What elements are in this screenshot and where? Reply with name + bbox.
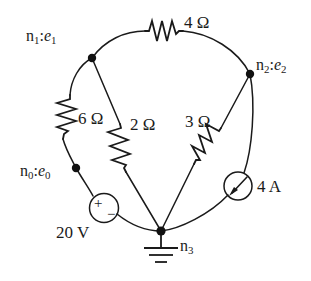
wire-r3-to-n3 bbox=[161, 164, 194, 231]
wire-r2-to-n3 bbox=[126, 172, 161, 231]
resistor-6ohm-label: 6 Ω bbox=[78, 110, 103, 127]
wire-n1-to-r4 bbox=[92, 31, 145, 58]
node-label-n3-n-sub: 3 bbox=[188, 244, 193, 256]
resistor-4ohm-zigzag bbox=[145, 21, 183, 41]
node-label-n3: n3 bbox=[180, 238, 193, 256]
wire-isource-to-n3 bbox=[161, 195, 228, 231]
circuit-diagram: n1:e1 n2:e2 n0:e0 n3 4 Ω 6 Ω 2 Ω 3 Ω 20 … bbox=[0, 0, 311, 281]
node-label-n2-n: n bbox=[256, 56, 264, 73]
node-dot-n1[interactable] bbox=[88, 54, 96, 62]
wire-vsource-to-n3 bbox=[117, 214, 161, 231]
node-label-n3-n: n bbox=[180, 237, 188, 254]
node-label-n2-e: e bbox=[274, 56, 281, 73]
node-label-n0-n: n bbox=[20, 162, 28, 179]
resistor-6ohm-zigzag bbox=[57, 95, 76, 139]
wire-r4-to-n2 bbox=[183, 31, 250, 74]
node-label-n0: n0:e0 bbox=[20, 163, 50, 181]
resistor-2ohm-zigzag bbox=[108, 124, 130, 172]
resistor-3ohm-label: 3 Ω bbox=[185, 113, 210, 130]
wire-n2-to-r3 bbox=[221, 74, 250, 128]
wire-r6-to-n0 bbox=[63, 139, 76, 168]
node-dot-n2[interactable] bbox=[246, 70, 254, 78]
current-source-label: 4 A bbox=[257, 178, 281, 195]
node-dot-n0[interactable] bbox=[72, 164, 80, 172]
node-label-n0-e-sub: 0 bbox=[45, 169, 50, 181]
voltage-source-minus-sign: − bbox=[107, 207, 115, 222]
node-label-n1: n1:e1 bbox=[26, 28, 56, 46]
node-label-n2: n2:e2 bbox=[256, 57, 286, 75]
wire-n0-to-vsource bbox=[76, 168, 93, 196]
node-label-n1-e-sub: 1 bbox=[51, 34, 56, 46]
wire-n2-to-isource bbox=[244, 74, 253, 173]
node-label-n1-n: n bbox=[26, 27, 34, 44]
node-label-n2-e-sub: 2 bbox=[281, 63, 286, 75]
wire-n1-to-r6 bbox=[70, 58, 92, 95]
node-label-n0-e: e bbox=[38, 162, 45, 179]
resistor-2ohm-label: 2 Ω bbox=[130, 116, 155, 133]
node-dot-n3[interactable] bbox=[156, 226, 165, 235]
voltage-source-plus-sign: + bbox=[94, 196, 102, 211]
voltage-source-label: 20 V bbox=[56, 224, 89, 241]
node-label-n1-e: e bbox=[44, 27, 51, 44]
resistor-4ohm-label: 4 Ω bbox=[184, 14, 209, 31]
